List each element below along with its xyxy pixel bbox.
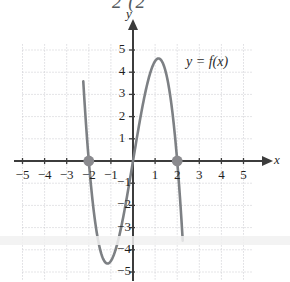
curve-equation-label: y = f(x): [186, 54, 228, 70]
marked-point: [172, 156, 183, 167]
x-tick-label: 2: [167, 167, 187, 183]
x-axis-label: x: [274, 152, 280, 168]
marked-point: [83, 156, 94, 167]
y-tick-label: 1: [112, 130, 132, 146]
x-tick-label: 1: [145, 167, 165, 183]
x-tick-label: −3: [57, 167, 77, 183]
gridlines: [23, 44, 254, 280]
y-tick-label: 5: [112, 41, 132, 57]
y-tick-label: −3: [114, 219, 134, 235]
x-tick-label: 5: [234, 167, 254, 183]
x-tick-label: −5: [13, 167, 33, 183]
x-tick-label: −2: [79, 167, 99, 183]
y-tick-label: 2: [112, 108, 132, 124]
y-tick-label: −2: [114, 196, 134, 212]
y-tick-label: 4: [112, 63, 132, 79]
y-axis-label: y: [126, 6, 132, 22]
x-tick-label: 3: [189, 167, 209, 183]
y-tick-label: −1: [114, 174, 134, 190]
y-tick-label: −4: [114, 241, 134, 257]
x-tick-label: −4: [35, 167, 55, 183]
x-axis-arrow: [262, 156, 273, 166]
x-tick-label: 4: [211, 167, 231, 183]
y-tick-label: −5: [114, 263, 134, 279]
axes: [14, 19, 273, 281]
graph-figure: 2 (2 x y y = f(x) −5−4−3−2−11234554321−1…: [0, 0, 290, 282]
y-tick-label: 3: [112, 85, 132, 101]
coordinate-plane: [0, 0, 290, 282]
